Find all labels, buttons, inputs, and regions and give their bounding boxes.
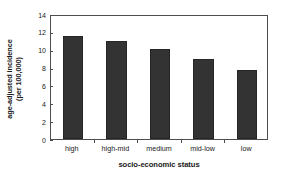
x-axis-title: socio-economic status (50, 160, 268, 169)
x-axis-tick-label: medium (137, 144, 181, 153)
y-axis-tick-mark (50, 140, 53, 141)
y-axis-tick-label: 0 (30, 137, 46, 144)
bar (193, 59, 213, 139)
y-axis-tick-mark (50, 51, 53, 52)
y-axis-tick-label: 2 (30, 119, 46, 126)
y-axis-tick-label: 10 (30, 47, 46, 54)
y-axis-tick-label: 6 (30, 83, 46, 90)
y-axis-tick-mark (50, 122, 53, 123)
bar (150, 49, 170, 139)
y-axis-tick-mark (50, 86, 53, 87)
y-axis-tick-label: 14 (30, 12, 46, 19)
x-axis-tick-label: high (50, 144, 94, 153)
x-axis-tick-label: mid-low (181, 144, 225, 153)
bar-series (51, 16, 267, 139)
y-axis-title-line-2: (per 100,000) (15, 39, 24, 119)
x-axis-tick-mark (137, 140, 138, 143)
x-axis-tick-label: low (224, 144, 268, 153)
y-axis-tick-label: 4 (30, 101, 46, 108)
y-axis-tick-mark (50, 33, 53, 34)
bar (63, 36, 83, 139)
bar-chart-figure: age-adjusted incidence (per 100,000) 024… (0, 0, 281, 180)
x-axis-tick-label: high-mid (94, 144, 138, 153)
x-axis-tick-labels: highhigh-midmediummid-lowlow (50, 144, 268, 156)
x-axis-tick-mark (94, 140, 95, 143)
plot-area (50, 15, 268, 140)
y-axis-tick-mark (50, 104, 53, 105)
y-axis-tick-mark (50, 69, 53, 70)
x-axis-tick-mark (224, 140, 225, 143)
y-axis-tick-label: 12 (30, 29, 46, 36)
bar (237, 70, 257, 139)
y-axis-tick-mark (50, 15, 53, 16)
y-axis-tick-labels: 02468101214 (28, 0, 46, 180)
bar (106, 41, 126, 139)
y-axis-title: age-adjusted incidence (per 100,000) (0, 18, 30, 140)
y-axis-tick-label: 8 (30, 65, 46, 72)
x-axis-tick-mark (181, 140, 182, 143)
